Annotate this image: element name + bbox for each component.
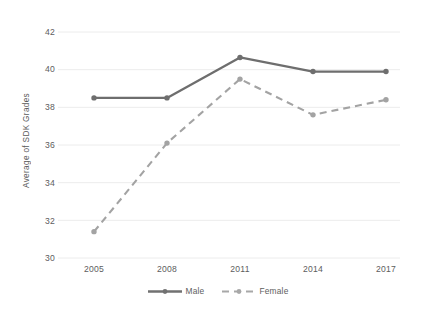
data-point <box>383 69 388 74</box>
plot-area <box>0 0 437 323</box>
gridlines <box>58 32 400 258</box>
legend-label-male: Male <box>185 286 204 296</box>
data-point <box>91 229 96 234</box>
data-point <box>310 112 315 117</box>
legend-swatch-female-icon <box>222 287 256 296</box>
data-point <box>383 97 388 102</box>
legend-label-female: Female <box>259 286 288 296</box>
data-point <box>237 55 242 60</box>
chart-legend: Male Female <box>0 286 437 296</box>
data-point <box>164 140 169 145</box>
data-point <box>237 76 242 81</box>
legend-item-female[interactable]: Female <box>222 286 288 296</box>
line-chart: Average of SDK Grades 42 40 38 36 34 32 … <box>0 0 437 323</box>
legend-item-male[interactable]: Male <box>148 286 204 296</box>
legend-swatch-male-icon <box>148 287 182 296</box>
data-point <box>91 95 96 100</box>
series-female <box>91 76 388 234</box>
data-point <box>164 95 169 100</box>
data-point <box>310 69 315 74</box>
